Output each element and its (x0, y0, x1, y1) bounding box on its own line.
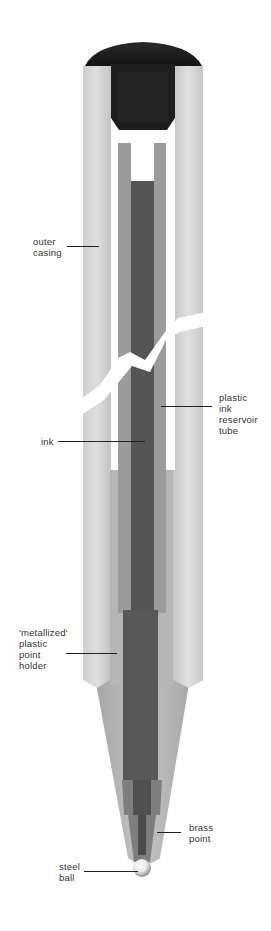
leader-line-brass-point (157, 832, 181, 833)
leader-line-point-holder (66, 653, 117, 654)
label-plastic-ink-reservoir-tube: plastic ink reservoir tube (219, 392, 258, 436)
cap-dome (85, 42, 202, 66)
steel-ball (133, 859, 151, 877)
label-metallized-plastic-point-holder: 'metallized' plastic point holder (19, 627, 68, 671)
label-ink: ink (41, 436, 54, 447)
ink-channel (133, 780, 151, 815)
pen-cross-section-diagram (0, 0, 271, 931)
label-outer-casing: outer casing (33, 236, 62, 258)
ink-channel-narrow (138, 815, 146, 855)
leader-line-steel-ball (84, 871, 138, 872)
ink-column (131, 181, 154, 611)
label-steel-ball: steel ball (59, 861, 80, 883)
outer-casing-right (173, 66, 203, 688)
leader-line-outer-casing (67, 246, 99, 247)
ink-wide (123, 610, 158, 780)
leader-line-ink (58, 441, 145, 442)
label-brass-point: brass point (189, 822, 213, 844)
reservoir-tube-right (154, 143, 166, 613)
leader-line-reservoir-tube (161, 406, 212, 407)
